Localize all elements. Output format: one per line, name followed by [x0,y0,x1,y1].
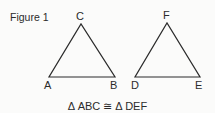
vertex-label-e: E [195,80,202,91]
triangle-abc [49,24,115,77]
vertex-label-c: C [76,11,84,22]
vertex-label-b: B [110,80,117,91]
congruence-caption: Δ ABC ≅ Δ DEF [0,100,215,112]
vertex-label-f: F [163,10,170,21]
vertex-label-d: D [131,80,139,91]
vertex-label-a: A [44,80,51,91]
triangle-def [135,23,200,77]
figure-title: Figure 1 [10,12,49,23]
